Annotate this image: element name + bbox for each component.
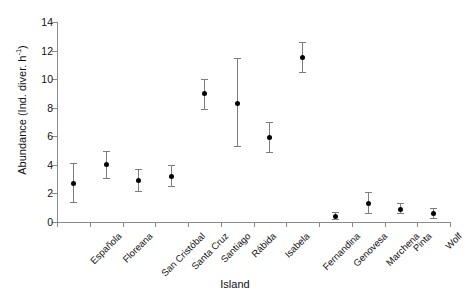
x-category-label: Wolf xyxy=(443,231,463,251)
error-bar-cap-upper xyxy=(299,42,306,43)
x-tick-mark xyxy=(319,222,320,227)
error-bar-cap-lower xyxy=(70,202,77,203)
y-tick-label: 14 xyxy=(41,17,53,28)
data-marker xyxy=(71,181,76,186)
x-tick-mark xyxy=(417,222,418,227)
error-bar-cap-upper xyxy=(103,151,110,152)
data-marker xyxy=(300,55,305,60)
y-axis-title-tail: ) xyxy=(16,45,28,49)
y-tick-label: 2 xyxy=(47,188,53,199)
data-marker xyxy=(267,135,272,140)
data-marker xyxy=(431,211,436,216)
data-marker xyxy=(104,162,109,167)
error-bar-cap-lower xyxy=(201,109,208,110)
y-tick-label: 10 xyxy=(41,74,53,85)
error-bar-cap-upper xyxy=(365,192,372,193)
x-category-label: Isabela xyxy=(283,231,311,259)
error-bar-cap-upper xyxy=(135,169,142,170)
x-tick-mark xyxy=(352,222,353,227)
plot-area: 02468101214 xyxy=(57,22,450,222)
y-axis-title: Abundance (Ind. diver. h-1) xyxy=(16,10,28,210)
error-bar-cap-lower xyxy=(397,213,404,214)
data-marker xyxy=(202,91,207,96)
x-tick-mark xyxy=(385,222,386,227)
error-bar-cap-lower xyxy=(299,72,306,73)
data-marker xyxy=(333,214,338,219)
error-bar-cap-upper xyxy=(430,208,437,209)
y-tick-label: 12 xyxy=(41,45,53,56)
x-tick-mark xyxy=(155,222,156,227)
error-bar-cap-lower xyxy=(168,186,175,187)
x-category-label: Rábida xyxy=(250,231,278,259)
error-bar-cap-lower xyxy=(266,152,273,153)
x-tick-mark xyxy=(188,222,189,227)
error-bar-cap-lower xyxy=(430,218,437,219)
y-tick-label: 4 xyxy=(47,160,53,171)
x-tick-mark xyxy=(450,222,451,227)
error-bar-cap-upper xyxy=(70,163,77,164)
data-marker xyxy=(366,201,371,206)
error-bar-cap-upper xyxy=(397,203,404,204)
x-tick-mark xyxy=(286,222,287,227)
data-marker xyxy=(398,207,403,212)
error-bar-cap-lower xyxy=(332,219,339,220)
x-category-label: Española xyxy=(89,231,124,266)
data-marker xyxy=(136,178,141,183)
y-tick-label: 6 xyxy=(47,131,53,142)
x-tick-mark xyxy=(254,222,255,227)
y-tick-label: 0 xyxy=(47,217,53,228)
error-bar-cap-upper xyxy=(168,165,175,166)
error-bar-cap-lower xyxy=(103,178,110,179)
error-bar-cap-lower xyxy=(234,146,241,147)
x-category-label: Floreana xyxy=(121,231,154,264)
x-tick-mark xyxy=(221,222,222,227)
x-axis-title: Island xyxy=(0,278,470,290)
error-bar-cap-upper xyxy=(234,58,241,59)
y-axis-title-exponent: -1 xyxy=(14,49,23,56)
error-bar-cap-lower xyxy=(135,191,142,192)
chart-figure: Abundance (Ind. diver. h-1) 02468101214 … xyxy=(0,0,470,301)
y-tick-label: 8 xyxy=(47,102,53,113)
data-marker xyxy=(169,174,174,179)
error-bar-cap-upper xyxy=(266,122,273,123)
x-tick-mark xyxy=(90,222,91,227)
y-axis-title-text: Abundance (Ind. diver. h xyxy=(16,56,28,175)
error-bar-cap-upper xyxy=(332,212,339,213)
x-tick-mark xyxy=(123,222,124,227)
x-tick-mark xyxy=(57,222,58,227)
error-bar-cap-upper xyxy=(201,79,208,80)
error-bar-cap-lower xyxy=(365,213,372,214)
data-marker xyxy=(235,101,240,106)
